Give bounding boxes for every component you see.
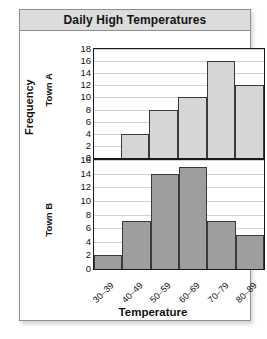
y-tick-label: 4 <box>73 128 91 137</box>
y-tick-label: 16 <box>73 56 91 65</box>
bar <box>149 110 178 158</box>
bars-town-b <box>94 160 264 269</box>
bar <box>121 134 150 158</box>
bar <box>207 61 236 158</box>
y-tick-label: 14 <box>73 68 91 77</box>
bar <box>235 85 264 158</box>
x-tick-label: 40–49 <box>120 280 145 305</box>
bars-town-a <box>94 49 264 158</box>
bar <box>94 255 122 269</box>
x-tick-label: 80–89 <box>234 280 259 305</box>
y-tick-label: 12 <box>73 182 91 191</box>
x-axis-title: Temperature <box>60 306 246 318</box>
chart-frame: Daily High Temperatures Frequency Town A… <box>19 9 251 321</box>
y-tick-label: 2 <box>73 140 91 149</box>
y-ticks-town-b: 1614121086420 <box>70 159 91 270</box>
plot-panel-town-a <box>93 48 265 159</box>
bar <box>151 174 179 269</box>
chart-title-bar: Daily High Temperatures <box>20 10 250 31</box>
y-tick-label: 10 <box>73 92 91 101</box>
x-tick-label: 60–69 <box>177 280 202 305</box>
panel-a-label: Town A <box>43 95 54 107</box>
y-tick-label: 8 <box>73 209 91 218</box>
bar <box>236 235 264 269</box>
y-tick-label: 18 <box>73 44 91 53</box>
x-tick-labels: 30–3940–4950–5960–6970–7980–89 <box>93 271 265 305</box>
y-axis-title: Frequency <box>23 121 35 135</box>
y-ticks-town-a: 181614121086420 <box>70 48 91 159</box>
chart-figure: Daily High Temperatures Frequency Town A… <box>0 0 267 339</box>
y-tick-label: 6 <box>73 116 91 125</box>
y-tick-label: 14 <box>73 168 91 177</box>
y-tick-label: 16 <box>73 155 91 164</box>
bar <box>178 97 207 158</box>
chart-title: Daily High Temperatures <box>64 13 207 27</box>
y-tick-label: 10 <box>73 195 91 204</box>
panel-b-label: Town B <box>43 225 54 237</box>
y-tick-label: 8 <box>73 104 91 113</box>
y-tick-label: 12 <box>73 80 91 89</box>
plot-panel-town-b <box>93 159 265 270</box>
bar <box>179 167 207 269</box>
y-tick-label: 0 <box>73 264 91 273</box>
x-tick-label: 70–79 <box>206 280 231 305</box>
x-tick-label: 50–59 <box>148 280 173 305</box>
x-tick-label: 30–39 <box>91 280 116 305</box>
bar <box>122 221 150 269</box>
y-tick-label: 2 <box>73 250 91 259</box>
y-tick-label: 6 <box>73 223 91 232</box>
bar <box>207 221 235 269</box>
y-tick-label: 4 <box>73 236 91 245</box>
